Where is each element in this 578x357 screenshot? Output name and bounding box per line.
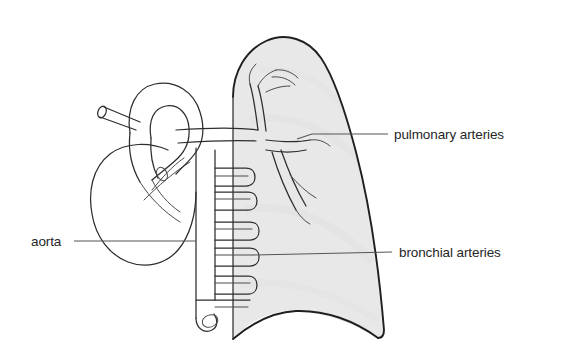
lung-shape [233, 37, 384, 339]
diagram-canvas: pulmonary arteries bronchial arteries ao… [0, 0, 578, 357]
label-bronchial-arteries: bronchial arteries [399, 245, 501, 260]
label-pulmonary-arteries: pulmonary arteries [394, 127, 504, 142]
label-aorta: aorta [31, 234, 62, 249]
anatomy-diagram: pulmonary arteries bronchial arteries ao… [0, 0, 578, 357]
branch-open-end [96, 105, 108, 119]
arch-fill [129, 83, 202, 148]
lung-fill [233, 37, 384, 339]
heart-shape [91, 144, 196, 265]
